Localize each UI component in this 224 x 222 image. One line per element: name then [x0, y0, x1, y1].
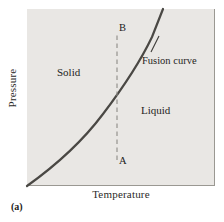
- figure-caption: (a): [11, 201, 23, 212]
- region-label-solid: Solid: [57, 66, 80, 78]
- y-axis-label: Pressure: [6, 43, 18, 133]
- point-label-b: B: [119, 22, 126, 33]
- phase-diagram-figure: Solid Liquid Fusion curve B A Pressure T…: [0, 0, 224, 222]
- region-label-liquid: Liquid: [141, 104, 170, 116]
- point-label-a: A: [119, 155, 127, 166]
- fusion-curve-label: Fusion curve: [142, 55, 197, 66]
- x-axis-label: Temperature: [27, 188, 215, 200]
